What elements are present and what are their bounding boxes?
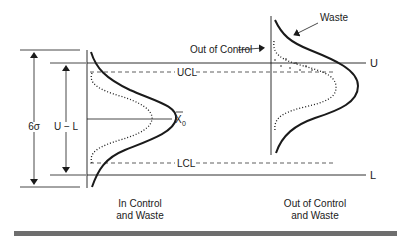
l-label: L	[370, 169, 376, 181]
bottom-rule	[14, 231, 397, 236]
six-sigma-label: 6σ	[28, 121, 41, 132]
out-of-control-annotation: Out of Control	[190, 44, 262, 55]
u-minus-l-label: U − L	[54, 121, 79, 132]
u-minus-l-dimension: U − L	[50, 63, 86, 175]
right-caption: Out of Control and Waste	[265, 198, 365, 222]
left-caption: In Control and Waste	[100, 198, 180, 222]
lcl-label: LCL	[177, 158, 196, 169]
ucl-label: UCL	[177, 67, 197, 78]
u-label: U	[370, 57, 378, 69]
six-sigma-dimension: 6σ	[20, 50, 80, 187]
svg-text:Waste: Waste	[320, 12, 348, 23]
out-of-control-points	[274, 58, 313, 71]
right-control-curve-dotted	[274, 41, 336, 130]
svg-text:0: 0	[182, 120, 186, 127]
waste-annotation: Waste	[296, 12, 348, 34]
right-process-curve-solid	[275, 20, 358, 153]
